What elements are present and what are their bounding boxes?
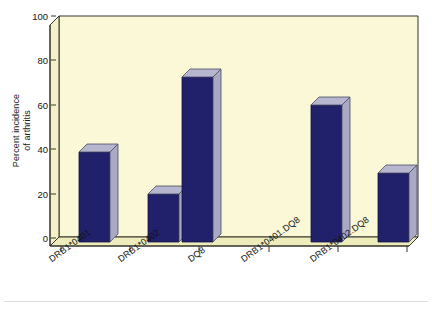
bar-chart-plot bbox=[0, 0, 432, 311]
bar-dq8 bbox=[182, 69, 221, 242]
y-tick-label: 100 bbox=[22, 11, 48, 22]
bar-front-face bbox=[182, 77, 213, 242]
page-bottom-rule bbox=[4, 301, 428, 302]
x-tick-marks bbox=[61, 246, 407, 252]
y-axis-title-line1: Percent incidence bbox=[11, 56, 22, 206]
bar-side-face bbox=[110, 144, 118, 242]
y-tick-label: 0 bbox=[22, 233, 48, 244]
chart-figure: 100 80 60 40 20 0 Percent incidence of a… bbox=[0, 0, 432, 311]
bar-side-face bbox=[213, 69, 221, 242]
y-axis-title: Percent incidence of arthritis bbox=[11, 56, 32, 206]
bar-drb1-0401-dq8 bbox=[311, 97, 350, 242]
bar-drb1-0402-dq8 bbox=[378, 165, 417, 242]
bar-side-face bbox=[409, 165, 417, 242]
bar-side-face bbox=[342, 97, 350, 242]
bar-front-face bbox=[311, 105, 342, 242]
bar-front-face bbox=[378, 173, 409, 242]
y-axis-title-line2: of arthritis bbox=[21, 56, 32, 206]
